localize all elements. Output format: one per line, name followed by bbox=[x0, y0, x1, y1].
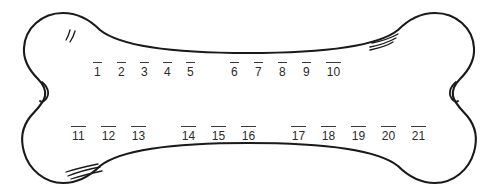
number-value: 7 bbox=[253, 66, 264, 78]
number-cell: 14 bbox=[180, 126, 197, 142]
overline-bar bbox=[163, 62, 172, 63]
number-value: 11 bbox=[70, 130, 87, 142]
number-row-bottom: 11 12 13 14 15 bbox=[70, 126, 427, 142]
number-group-bottom-2: 14 15 16 bbox=[180, 126, 257, 142]
number-cell: 19 bbox=[350, 126, 367, 142]
number-row-top: 1 2 3 4 5 bbox=[92, 62, 342, 78]
number-cell: 9 bbox=[301, 62, 312, 78]
number-cell: 2 bbox=[116, 62, 127, 78]
bone-number-chart: 1 2 3 4 5 bbox=[0, 0, 497, 196]
overline-bar bbox=[326, 62, 341, 63]
overline-bar bbox=[351, 126, 366, 127]
number-value: 21 bbox=[410, 130, 427, 142]
overline-bar bbox=[211, 126, 226, 127]
overline-bar bbox=[93, 62, 102, 63]
number-cell: 12 bbox=[100, 126, 117, 142]
overline-bar bbox=[71, 126, 86, 127]
overline-bar bbox=[321, 126, 336, 127]
number-cell: 13 bbox=[130, 126, 147, 142]
number-cell: 6 bbox=[229, 62, 240, 78]
overline-bar bbox=[241, 126, 256, 127]
overline-bar bbox=[140, 62, 149, 63]
overline-bar bbox=[411, 126, 426, 127]
number-value: 20 bbox=[380, 130, 397, 142]
number-group-bottom-1: 11 12 13 bbox=[70, 126, 147, 142]
number-cell: 3 bbox=[139, 62, 150, 78]
number-group-bottom-3: 17 18 19 20 21 bbox=[290, 126, 427, 142]
number-cell: 16 bbox=[240, 126, 257, 142]
number-cell: 1 bbox=[92, 62, 103, 78]
number-value: 12 bbox=[100, 130, 117, 142]
number-cell: 5 bbox=[185, 62, 196, 78]
number-value: 17 bbox=[290, 130, 307, 142]
number-cell: 10 bbox=[325, 62, 342, 78]
number-cell: 17 bbox=[290, 126, 307, 142]
overline-bar bbox=[381, 126, 396, 127]
number-value: 19 bbox=[350, 130, 367, 142]
number-cell: 20 bbox=[380, 126, 397, 142]
number-value: 18 bbox=[320, 130, 337, 142]
number-cell: 18 bbox=[320, 126, 337, 142]
number-value: 3 bbox=[139, 66, 150, 78]
number-value: 4 bbox=[162, 66, 173, 78]
number-value: 8 bbox=[277, 66, 288, 78]
number-value: 16 bbox=[240, 130, 257, 142]
number-cell: 8 bbox=[277, 62, 288, 78]
number-cell: 7 bbox=[253, 62, 264, 78]
bone-outline-illustration bbox=[0, 0, 497, 196]
overline-bar bbox=[302, 62, 311, 63]
number-value: 5 bbox=[185, 66, 196, 78]
number-cell: 4 bbox=[162, 62, 173, 78]
number-value: 2 bbox=[116, 66, 127, 78]
overline-bar bbox=[230, 62, 239, 63]
number-value: 14 bbox=[180, 130, 197, 142]
overline-bar bbox=[117, 62, 126, 63]
overline-bar bbox=[254, 62, 263, 63]
number-value: 10 bbox=[325, 66, 342, 78]
overline-bar bbox=[278, 62, 287, 63]
number-value: 1 bbox=[92, 66, 103, 78]
overline-bar bbox=[101, 126, 116, 127]
number-value: 13 bbox=[130, 130, 147, 142]
overline-bar bbox=[131, 126, 146, 127]
number-value: 15 bbox=[210, 130, 227, 142]
number-value: 6 bbox=[229, 66, 240, 78]
number-group-top-2: 6 7 8 9 10 bbox=[229, 62, 342, 78]
number-cell: 15 bbox=[210, 126, 227, 142]
overline-bar bbox=[291, 126, 306, 127]
overline-bar bbox=[186, 62, 195, 63]
bone-outline-path bbox=[22, 13, 476, 183]
number-cell: 21 bbox=[410, 126, 427, 142]
number-group-top-1: 1 2 3 4 5 bbox=[92, 62, 196, 78]
number-cell: 11 bbox=[70, 126, 87, 142]
number-value: 9 bbox=[301, 66, 312, 78]
overline-bar bbox=[181, 126, 196, 127]
